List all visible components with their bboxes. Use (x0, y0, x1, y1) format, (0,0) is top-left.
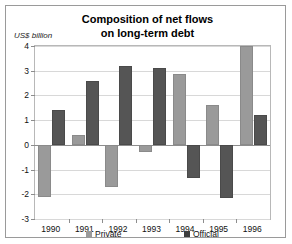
gridline (35, 194, 270, 195)
bar-official-1991 (86, 81, 99, 145)
bar-private-1995 (206, 105, 219, 145)
bar-private-1992 (105, 145, 118, 187)
legend-label: Official (193, 229, 219, 239)
bar-official-1996 (254, 115, 267, 145)
y-tick-label: 2 (24, 90, 29, 100)
chart-title-line-1: Composition of net flows (82, 13, 213, 25)
x-tick-mark (69, 219, 70, 223)
y-tick-mark (31, 46, 35, 47)
x-tick-mark (169, 219, 170, 223)
y-tick-mark (31, 170, 35, 171)
gridline (35, 170, 270, 171)
y-axis-label: US$ billion (14, 31, 52, 40)
y-tick-mark (31, 219, 35, 220)
y-tick-mark (31, 95, 35, 96)
legend-item-official[interactable]: Official (184, 229, 219, 239)
y-tick-mark (31, 71, 35, 72)
x-tick-mark (203, 219, 204, 223)
bar-official-1992 (119, 66, 132, 145)
chart-title-line-2: on long-term debt (40, 26, 255, 40)
legend-swatch-icon (184, 231, 190, 237)
bar-private-1991 (72, 135, 85, 145)
y-tick-mark (31, 194, 35, 195)
x-tick-mark (102, 219, 103, 223)
y-tick-label: -1 (21, 165, 29, 175)
plot-area: 43210-1-2-3 (34, 45, 271, 220)
bar-private-1990 (38, 145, 51, 197)
y-tick-label: -3 (21, 214, 29, 224)
bar-private-1993 (139, 145, 152, 152)
chart-legend: PrivateOfficial (34, 229, 271, 241)
bar-official-1993 (153, 68, 166, 145)
chart-title: Composition of net flows on long-term de… (40, 12, 255, 40)
y-tick-mark (31, 145, 35, 146)
bar-official-1990 (52, 110, 65, 145)
bar-private-1996 (240, 46, 253, 145)
zero-line (35, 145, 270, 146)
bar-official-1995 (220, 145, 233, 198)
y-tick-label: 1 (24, 115, 29, 125)
y-tick-label: 4 (24, 41, 29, 51)
legend-label: Private (95, 229, 121, 239)
y-tick-label: 3 (24, 66, 29, 76)
gridline (35, 46, 270, 47)
chart-figure: Composition of net flows on long-term de… (0, 0, 292, 244)
bar-official-1994 (187, 145, 200, 178)
bar-private-1994 (173, 74, 186, 144)
y-tick-mark (31, 120, 35, 121)
legend-swatch-icon (86, 231, 92, 237)
x-tick-mark (136, 219, 137, 223)
y-tick-label: -2 (21, 189, 29, 199)
y-tick-label: 0 (24, 140, 29, 150)
legend-item-private[interactable]: Private (86, 229, 121, 239)
x-tick-mark (236, 219, 237, 223)
gridline (35, 219, 270, 220)
